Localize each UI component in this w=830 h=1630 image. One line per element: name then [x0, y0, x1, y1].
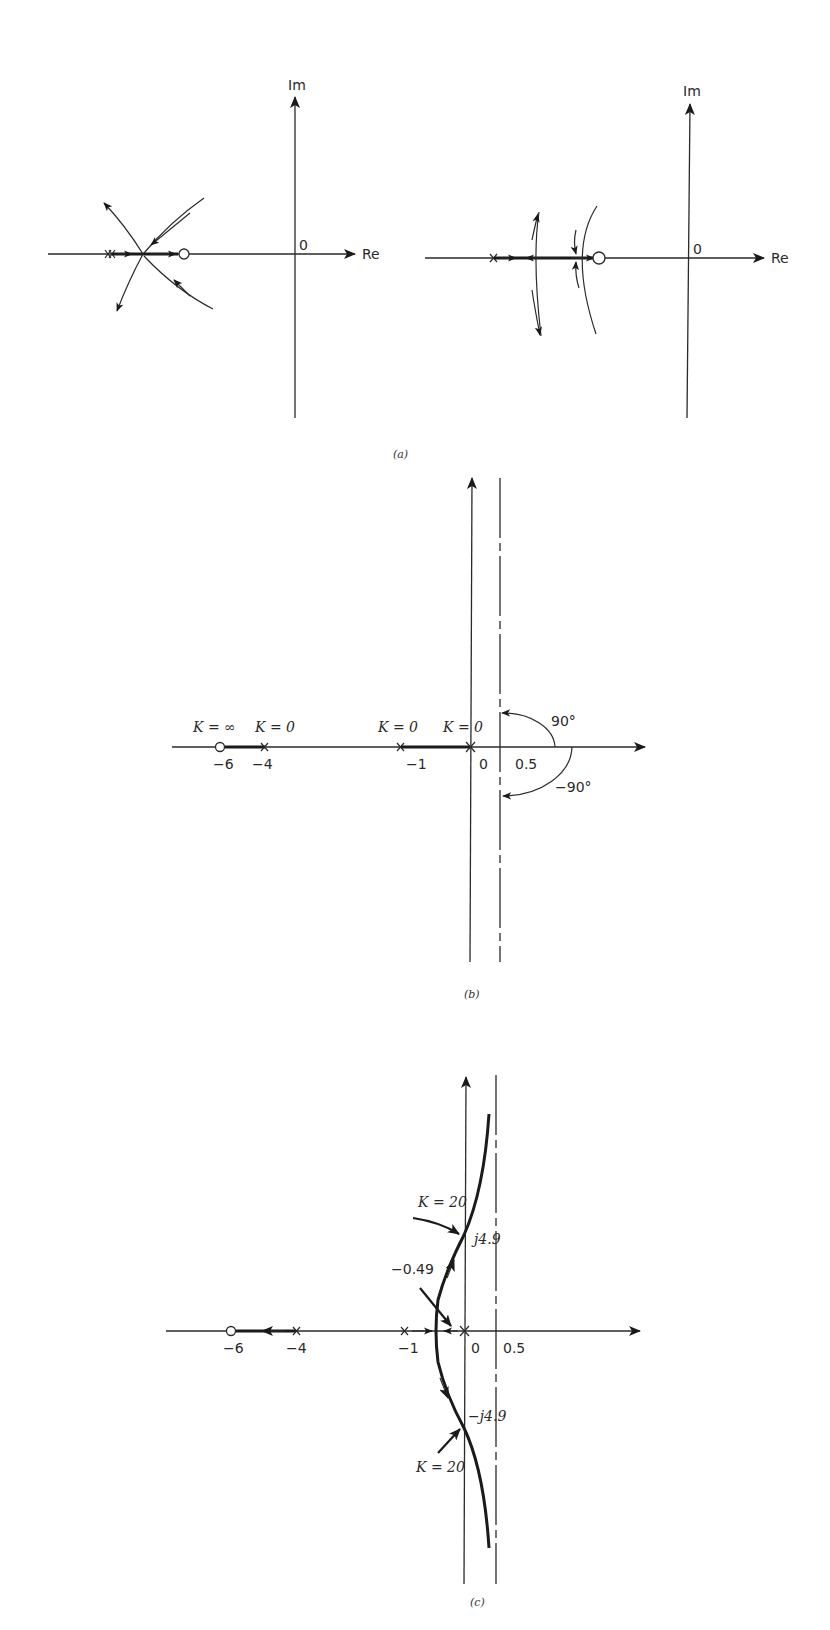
real-axis-label: Re	[362, 246, 380, 262]
tick-label: −4	[286, 1340, 307, 1356]
pointer-k20-lower	[438, 1429, 460, 1453]
angle-arc-positive	[502, 713, 555, 747]
locus-branch	[144, 256, 213, 309]
k-inf-label: K = ∞	[192, 719, 236, 735]
panel-b: K = ∞ K = 0 K = 0 K = 0 −6 −4 −1 0 0.5 9…	[172, 478, 645, 962]
k20-lower-label: K = 20	[415, 1459, 465, 1475]
origin-label: 0	[299, 237, 308, 253]
angle-label: 90°	[551, 713, 576, 729]
real-axis-label: Re	[771, 250, 789, 266]
pointer-k20-upper	[413, 1218, 459, 1234]
imag-axis-label: Im	[288, 77, 306, 93]
k0-label: K = 0	[254, 719, 295, 735]
tick-label: 0.5	[515, 756, 537, 772]
zero-marker	[227, 1327, 236, 1336]
tick-label: −1	[406, 756, 427, 772]
panel-a-right: Im Re 0	[425, 83, 789, 418]
imag-axis	[687, 104, 690, 418]
origin-label: 0	[693, 241, 702, 257]
caption-b: (b)	[464, 988, 480, 1001]
k0-label: K = 0	[377, 719, 418, 735]
tick-label: −1	[398, 1340, 419, 1356]
zero-marker	[593, 252, 605, 264]
root-locus-figure: Im Re 0 Im Re 0	[0, 0, 830, 1630]
jw-negative-label: −j4.9	[468, 1408, 506, 1424]
breakaway-label: −0.49	[391, 1261, 434, 1277]
jw-positive-label: j4.9	[471, 1231, 501, 1247]
caption-a: (a)	[393, 448, 408, 461]
tick-label: 0.5	[503, 1340, 525, 1356]
locus-branch	[117, 254, 143, 311]
caption-c: (c)	[470, 1596, 485, 1609]
imag-axis-label: Im	[683, 83, 701, 99]
tick-label: −6	[223, 1340, 244, 1356]
tick-label: −6	[213, 756, 234, 772]
tick-label: 0	[471, 1340, 480, 1356]
angle-label: −90°	[555, 779, 592, 795]
locus-branch	[582, 206, 597, 334]
tick-label: 0	[479, 756, 488, 772]
k0-label: K = 0	[442, 719, 483, 735]
panel-a-left: Im Re 0	[48, 77, 380, 418]
tick-label: −4	[252, 756, 273, 772]
zero-marker	[216, 743, 225, 752]
panel-c: K = 20 j4.9 −0.49 −j4.9 K = 20 −6 −4 −1 …	[166, 1075, 640, 1584]
k20-upper-label: K = 20	[417, 1194, 467, 1210]
zero-marker	[179, 249, 189, 259]
locus-branch	[104, 203, 143, 254]
